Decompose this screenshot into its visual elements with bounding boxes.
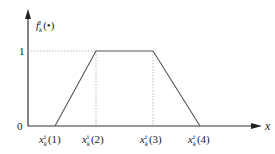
membership-function-diagram: fik(•) 1 0 xik(1) xik(2) xik(3) xik(4) x	[0, 0, 275, 154]
y-axis-label: fik(•)	[36, 19, 55, 34]
y-axis-arrowhead	[25, 9, 31, 19]
x-axis-arrowhead	[251, 123, 262, 129]
x-tick-1: xik(1)	[38, 133, 61, 148]
trapezoid-curve	[55, 51, 200, 126]
x-tick-4: xik(4)	[187, 133, 210, 148]
y-tick-0: 0	[17, 120, 23, 132]
x-tick-3: xik(3)	[139, 133, 162, 148]
x-axis-label: x	[264, 119, 271, 133]
x-tick-2: xik(2)	[81, 133, 104, 148]
y-tick-1: 1	[19, 45, 25, 57]
